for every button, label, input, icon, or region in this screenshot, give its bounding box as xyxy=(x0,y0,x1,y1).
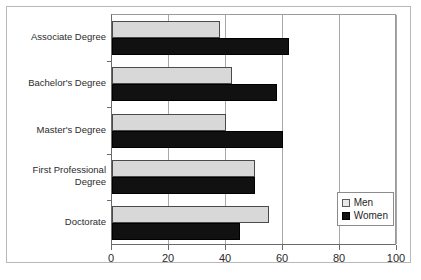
x-tick-label-40: 40 xyxy=(219,252,231,264)
category-label-3: First Professional Degree xyxy=(2,164,106,188)
legend-swatch-women-icon xyxy=(342,212,350,220)
bar-men-3 xyxy=(112,160,255,177)
chart-figure: Associate DegreeBachelor's DegreeMaster'… xyxy=(0,0,421,280)
y-tick-1 xyxy=(107,61,112,62)
legend-label-men: Men xyxy=(354,197,373,208)
x-tick-80 xyxy=(339,245,340,250)
bar-women-1 xyxy=(112,84,277,101)
category-label-4: Doctorate xyxy=(2,216,106,228)
legend-item-women[interactable]: Women xyxy=(342,209,388,222)
x-tick-20 xyxy=(168,245,169,250)
bar-women-3 xyxy=(112,177,255,194)
legend-swatch-men-icon xyxy=(342,199,350,207)
bar-men-2 xyxy=(112,114,226,131)
y-tick-2 xyxy=(107,107,112,108)
x-tick-label-60: 60 xyxy=(276,252,288,264)
x-tick-60 xyxy=(282,245,283,250)
bar-women-0 xyxy=(112,38,289,55)
x-tick-40 xyxy=(225,245,226,250)
x-tick-label-100: 100 xyxy=(387,252,405,264)
legend-item-men[interactable]: Men xyxy=(342,196,388,209)
gridline-100 xyxy=(396,15,397,244)
category-label-2: Master's Degree xyxy=(2,124,106,136)
bar-women-2 xyxy=(112,131,283,148)
x-tick-label-20: 20 xyxy=(162,252,174,264)
y-tick-4 xyxy=(107,200,112,201)
plot-area: Men Women xyxy=(111,14,396,245)
x-tick-0 xyxy=(111,245,112,250)
x-tick-label-80: 80 xyxy=(333,252,345,264)
legend-label-women: Women xyxy=(354,210,388,221)
bar-men-1 xyxy=(112,67,232,84)
category-label-0: Associate Degree xyxy=(2,31,106,43)
chart-legend[interactable]: Men Women xyxy=(337,192,394,226)
x-tick-label-0: 0 xyxy=(108,252,114,264)
y-tick-3 xyxy=(107,154,112,155)
bar-women-4 xyxy=(112,223,240,240)
bar-men-0 xyxy=(112,21,220,38)
bar-men-4 xyxy=(112,206,269,223)
x-tick-100 xyxy=(396,245,397,250)
category-label-1: Bachelor's Degree xyxy=(2,77,106,89)
